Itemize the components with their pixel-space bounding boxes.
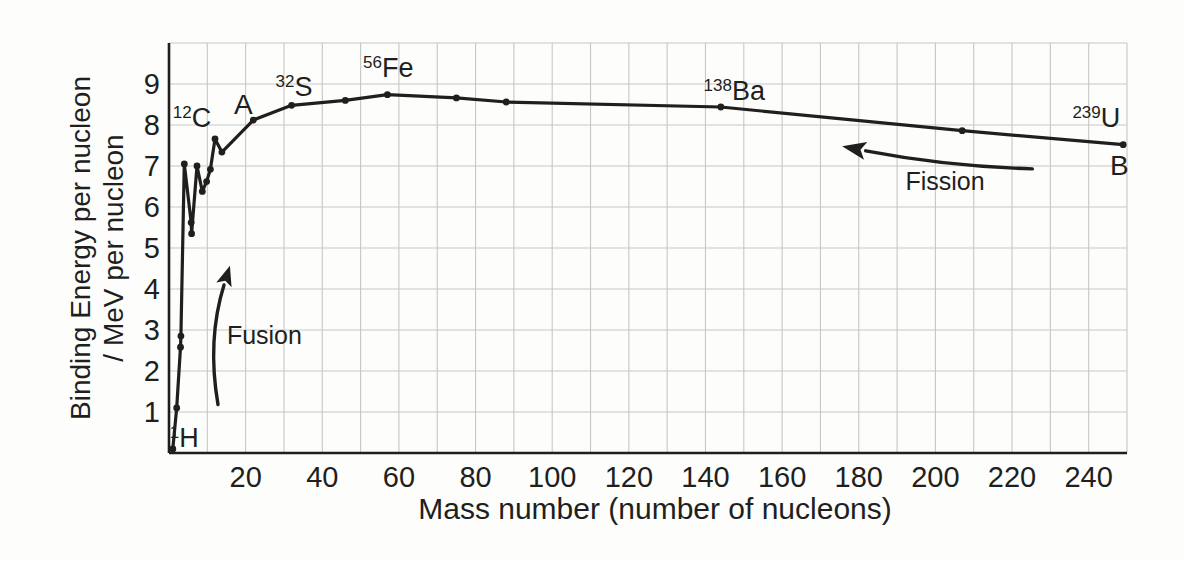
- binding-energy-curve: [173, 95, 1123, 449]
- y-axis-title-line2: / MeV per nucleon: [97, 8, 130, 488]
- data-point: [959, 127, 966, 134]
- annotation-label-56Fe: 56Fe: [363, 53, 413, 83]
- y-axis-title-line1: Binding Energy per nucleon: [64, 8, 97, 488]
- annotation-label-B: B: [1110, 150, 1129, 181]
- data-point: [177, 344, 184, 351]
- data-point: [342, 97, 349, 104]
- y-tick-label: 3: [144, 314, 160, 346]
- data-point: [169, 446, 176, 453]
- annotation-label-fusion: Fusion: [227, 321, 302, 349]
- y-tick-label: 4: [144, 273, 160, 305]
- y-tick-label: 7: [144, 150, 160, 182]
- data-point: [717, 104, 724, 111]
- fission-arrow-head: [842, 142, 867, 160]
- annotation-label-A: A: [234, 89, 253, 120]
- x-tick-label: 180: [835, 461, 883, 493]
- data-point: [219, 149, 226, 156]
- chart-canvas: 2040608010012014016018020022024012345678…: [0, 0, 1184, 561]
- data-point: [173, 405, 180, 412]
- x-tick-label: 60: [383, 461, 415, 493]
- y-tick-label: 9: [144, 68, 160, 100]
- x-tick-label: 200: [911, 461, 959, 493]
- data-point: [188, 230, 195, 237]
- y-tick-label: 5: [144, 232, 160, 264]
- data-point: [199, 188, 206, 195]
- data-point: [1120, 141, 1127, 148]
- annotation-label-32S: 32S: [275, 72, 312, 102]
- x-tick-label: 80: [459, 461, 491, 493]
- annotation-label-138Ba: 138Ba: [704, 76, 766, 106]
- data-point: [503, 99, 510, 106]
- x-axis-title: Mass number (number of nucleons): [405, 492, 905, 526]
- y-tick-label: 2: [144, 355, 160, 387]
- data-point: [181, 161, 188, 168]
- annotation-label-12C: 12C: [173, 103, 211, 133]
- x-tick-label: 20: [230, 461, 262, 493]
- data-point: [207, 166, 214, 173]
- data-point: [178, 333, 185, 340]
- y-tick-label: 1: [144, 396, 160, 428]
- annotation-label-239U: 239U: [1072, 103, 1120, 133]
- data-point: [212, 136, 219, 143]
- x-tick-label: 100: [528, 461, 576, 493]
- y-tick-label: 6: [144, 191, 160, 223]
- data-point: [203, 178, 210, 185]
- x-tick-label: 40: [306, 461, 338, 493]
- y-tick-label: 8: [144, 109, 160, 141]
- y-axis-title: Binding Energy per nucleon / MeV per nuc…: [64, 8, 130, 488]
- fusion-arrow-shaft: [214, 285, 224, 405]
- x-tick-label: 120: [605, 461, 653, 493]
- data-point: [194, 163, 201, 170]
- data-point: [288, 102, 295, 109]
- binding-energy-chart: 2040608010012014016018020022024012345678…: [0, 0, 1184, 561]
- x-tick-label: 240: [1064, 461, 1112, 493]
- data-point: [384, 91, 391, 98]
- data-point: [188, 219, 195, 226]
- x-tick-label: 220: [988, 461, 1036, 493]
- x-tick-label: 140: [681, 461, 729, 493]
- x-tick-label: 160: [758, 461, 806, 493]
- annotation-label-fission: Fission: [905, 167, 984, 195]
- data-point: [453, 95, 460, 102]
